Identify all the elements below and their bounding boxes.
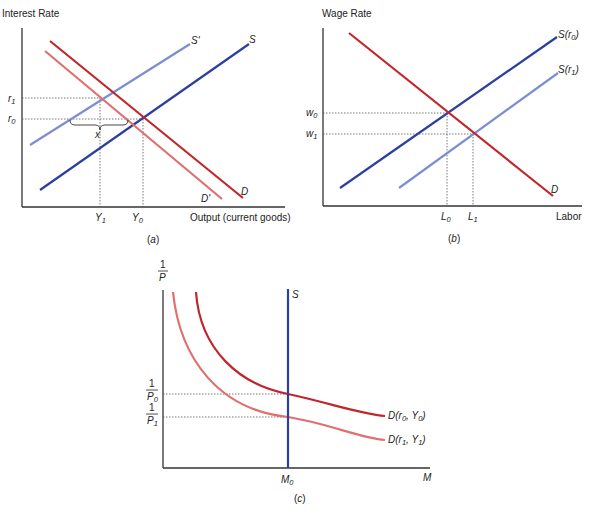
panel-c-curve-d-r1-y1 <box>173 292 385 440</box>
panel-a-curve-d <box>50 41 243 198</box>
panel-a-label-d-prime: D' <box>201 193 211 204</box>
panel-c-label-d-r1-y1: D(r1, Y1) <box>388 434 426 447</box>
panel-c-x-axis-label: M <box>423 472 432 483</box>
panel-a-label-s: S <box>249 34 256 45</box>
panel-a-tick-y0: Y0 <box>132 212 144 225</box>
panel-c-y-axis-label-den: P <box>159 272 166 283</box>
panel-b-curve-d <box>349 33 553 196</box>
panel-c-caption: (c) <box>294 493 306 504</box>
figure-canvas: Interest Rate x S' S D' D r1 r0 Y1 Y0 Ou… <box>0 0 592 511</box>
svg-text:1: 1 <box>149 378 155 389</box>
panel-a-tick-y1: Y1 <box>95 212 106 225</box>
panel-a-curve-d-prime <box>45 51 222 199</box>
panel-b-tick-l0: L0 <box>441 211 452 224</box>
panel-b-label-s-r0: S(r0) <box>558 29 579 42</box>
panel-a-caption: (a) <box>147 234 159 245</box>
svg-text:1: 1 <box>149 402 155 413</box>
panel-a-x-axis-label: Output (current goods) <box>190 212 291 223</box>
panel-b: Wage Rate S(r0) S(r1) D w0 w1 L0 L1 Labo… <box>306 8 582 244</box>
panel-c-tick-inv-p0: 1 P0 <box>146 378 159 404</box>
panel-b-tick-w0: w0 <box>306 107 318 120</box>
panel-c: 1 P S D(r0, Y0) D(r1, Y1) 1 P0 1 P1 M0 M <box>146 259 432 504</box>
panel-b-x-axis-label: Labor <box>556 211 582 222</box>
panel-a-label-s-prime: S' <box>191 35 201 46</box>
panel-b-tick-w1: w1 <box>306 128 317 141</box>
panel-a-brace-label: x <box>94 129 101 140</box>
panel-c-label-s: S <box>292 289 299 300</box>
panel-b-tick-l1: L1 <box>468 211 478 224</box>
panel-b-caption: (b) <box>448 233 460 244</box>
panel-b-label-d: D <box>551 184 558 195</box>
panel-a: Interest Rate x S' S D' D r1 r0 Y1 Y0 Ou… <box>2 8 291 245</box>
panel-c-y-axis-label-num: 1 <box>160 259 166 270</box>
svg-text:P1: P1 <box>147 415 158 428</box>
panel-b-label-s-r1: S(r1) <box>558 64 579 77</box>
panel-a-tick-r0: r0 <box>8 113 16 126</box>
panel-c-curve-d-r0-y0 <box>196 292 385 416</box>
panel-b-y-axis-label: Wage Rate <box>322 8 372 19</box>
panel-c-tick-m0: M0 <box>281 474 294 487</box>
panel-c-tick-inv-p1: 1 P1 <box>146 402 158 428</box>
panel-a-y-axis-label: Interest Rate <box>2 8 60 19</box>
panel-a-tick-r1: r1 <box>8 93 16 106</box>
panel-a-label-d: D <box>241 186 248 197</box>
panel-c-label-d-r0-y0: D(r0, Y0) <box>388 410 426 423</box>
